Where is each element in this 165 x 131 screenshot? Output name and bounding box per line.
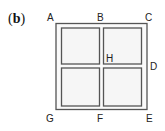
window-diagram (0, 0, 165, 131)
point-label-f: F (97, 114, 103, 124)
point-label-e: E (146, 114, 153, 124)
point-label-a: A (47, 13, 54, 23)
pane-bottom-right (104, 68, 142, 106)
point-label-b: B (97, 13, 104, 23)
point-label-c: C (145, 13, 152, 23)
point-label-g: G (46, 114, 54, 124)
point-label-h: H (106, 54, 113, 64)
pane-top-left (62, 28, 100, 64)
point-label-d: D (150, 62, 157, 72)
pane-bottom-left (62, 68, 100, 106)
